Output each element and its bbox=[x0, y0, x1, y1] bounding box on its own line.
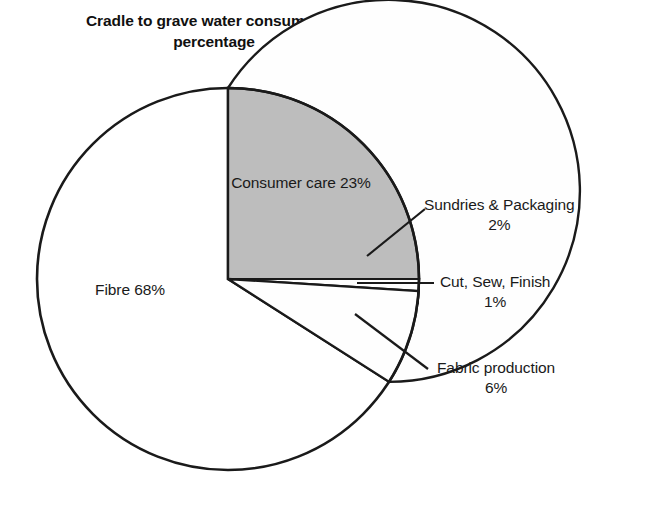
slice-label-cut-sew-finish: Cut, Sew, Finish 1% bbox=[440, 272, 550, 312]
slice-label-fibre-value: 68% bbox=[134, 281, 165, 298]
pie-slice-fabric-production[interactable] bbox=[228, 279, 419, 382]
slice-label-fibre: Fibre 68% bbox=[95, 279, 165, 300]
slice-label-cut-sew-finish-value: 1% bbox=[440, 292, 550, 312]
slice-label-consumer-care-name: Consumer care bbox=[231, 174, 336, 191]
slice-label-fabric-production: Fabric production 6% bbox=[437, 358, 555, 398]
slice-label-fabric-production-value: 6% bbox=[437, 378, 555, 398]
slice-label-cut-sew-finish-name: Cut, Sew, Finish bbox=[440, 272, 550, 292]
pie-graphic bbox=[0, 0, 668, 509]
slice-label-consumer-care-value: 23% bbox=[340, 174, 371, 191]
slice-label-consumer-care: Consumer care 23% bbox=[228, 172, 374, 193]
pie-chart: Cradle to grave water consumption percen… bbox=[0, 0, 668, 509]
slice-label-sundries-packaging-name: Sundries & Packaging bbox=[424, 195, 575, 215]
slice-label-fabric-production-name: Fabric production bbox=[437, 358, 555, 378]
slice-label-sundries-packaging-value: 2% bbox=[424, 215, 575, 235]
slice-label-sundries-packaging: Sundries & Packaging 2% bbox=[424, 195, 575, 235]
slice-label-fibre-name: Fibre bbox=[95, 281, 130, 298]
